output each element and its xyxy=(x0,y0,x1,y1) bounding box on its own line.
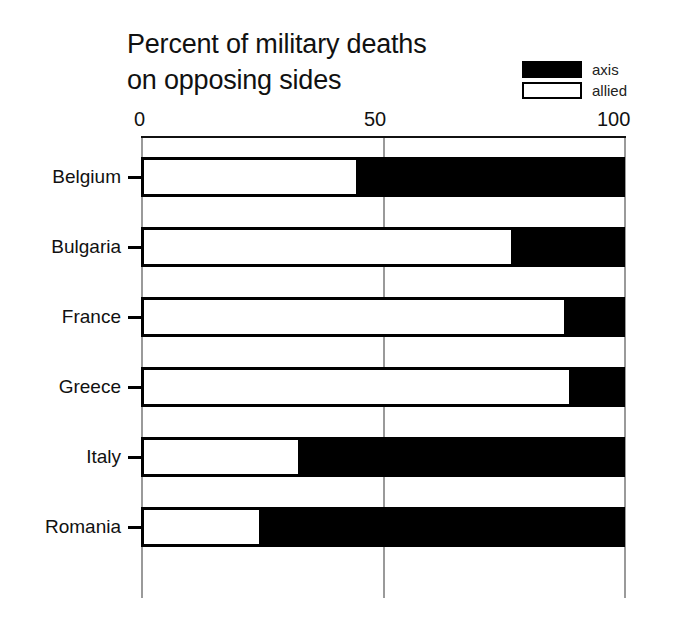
chart-title: Percent of military deaths on opposing s… xyxy=(127,26,527,98)
bar-row xyxy=(141,507,625,547)
category-tick-mark xyxy=(128,526,142,529)
chart-page: Percent of military deaths on opposing s… xyxy=(0,0,674,630)
category-label: Greece xyxy=(59,376,121,398)
bar-segment-axis xyxy=(356,160,622,194)
bar-row xyxy=(141,157,625,197)
bar-row xyxy=(141,297,625,337)
bar-segment-allied xyxy=(141,507,625,547)
bar-segment-allied xyxy=(141,297,625,337)
category-label: Italy xyxy=(86,446,121,468)
bar-row xyxy=(141,367,625,407)
category-tick-mark xyxy=(128,316,142,319)
bar-segment-allied xyxy=(141,367,625,407)
x-tick-label-50: 50 xyxy=(364,108,386,130)
legend-swatch-axis-icon xyxy=(522,61,582,78)
x-tick-label-0: 0 xyxy=(134,108,145,130)
bar-row xyxy=(141,227,625,267)
legend-label-allied: allied xyxy=(592,82,627,100)
category-tick-mark xyxy=(128,246,142,249)
category-label: Romania xyxy=(45,516,121,538)
bar-segment-axis xyxy=(569,370,622,404)
x-axis-line xyxy=(141,136,626,138)
bar-segment-allied xyxy=(141,437,625,477)
bar-segment-axis xyxy=(259,510,622,544)
category-tick-mark xyxy=(128,176,142,179)
category-tick-mark xyxy=(128,456,142,459)
bar-row xyxy=(141,437,625,477)
bar-segment-axis xyxy=(511,230,622,264)
category-tick-mark xyxy=(128,386,142,389)
bar-segment-axis xyxy=(298,440,622,474)
bar-segment-allied xyxy=(141,227,625,267)
category-label: Belgium xyxy=(52,166,121,188)
x-tick-label-100: 100 xyxy=(597,108,630,130)
bar-segment-axis xyxy=(564,300,622,334)
category-label: France xyxy=(62,306,121,328)
category-label: Bulgaria xyxy=(51,236,121,258)
bar-segment-allied xyxy=(141,157,625,197)
legend-swatch-allied-icon xyxy=(522,82,582,99)
legend-label-axis: axis xyxy=(592,61,619,79)
